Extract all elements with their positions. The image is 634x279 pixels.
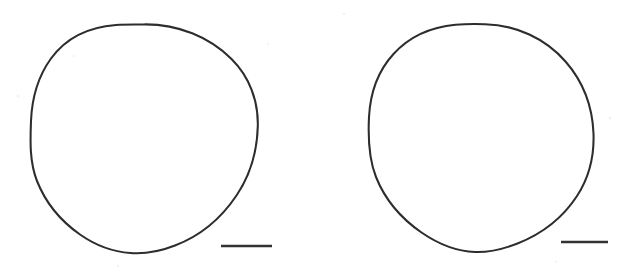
- figure-root: [0, 0, 634, 279]
- figure-canvas: [0, 0, 634, 279]
- figure-background: [0, 0, 634, 279]
